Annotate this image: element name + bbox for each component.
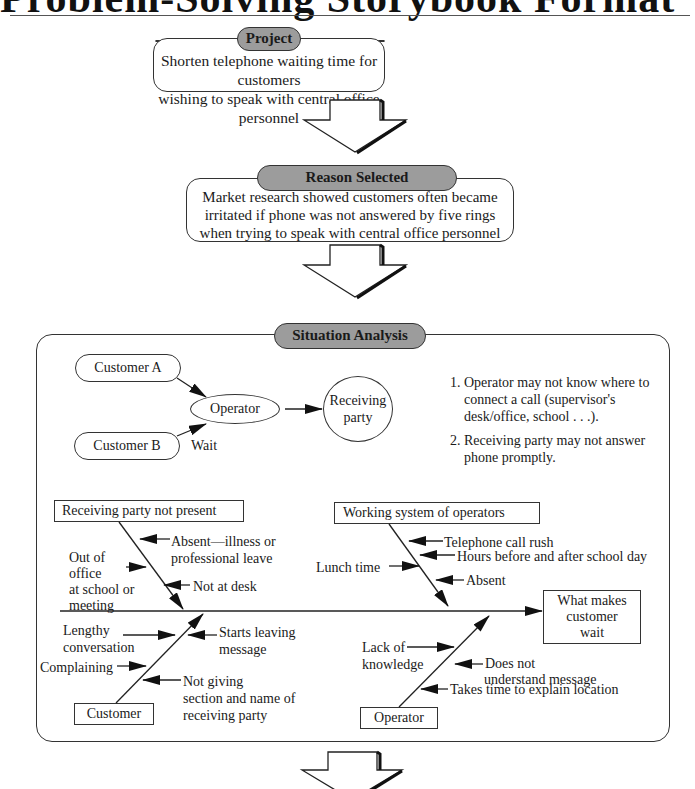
fishbone-lines <box>0 0 695 789</box>
